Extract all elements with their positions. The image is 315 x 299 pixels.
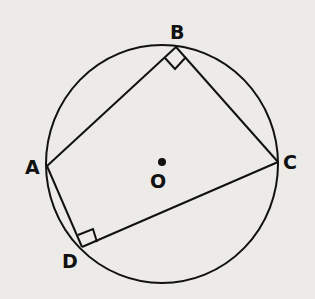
segment-cd	[82, 162, 278, 247]
label-a: A	[25, 158, 40, 177]
label-c: C	[283, 153, 297, 172]
right-angle-mark-d	[78, 229, 97, 242]
segment-ab	[47, 47, 176, 166]
center-point	[158, 158, 166, 166]
segment-da	[47, 166, 82, 247]
label-o: O	[150, 172, 166, 191]
geometry-diagram	[0, 0, 315, 299]
label-b: B	[170, 23, 184, 42]
right-angle-mark-b	[165, 57, 186, 69]
label-d: D	[62, 252, 78, 271]
